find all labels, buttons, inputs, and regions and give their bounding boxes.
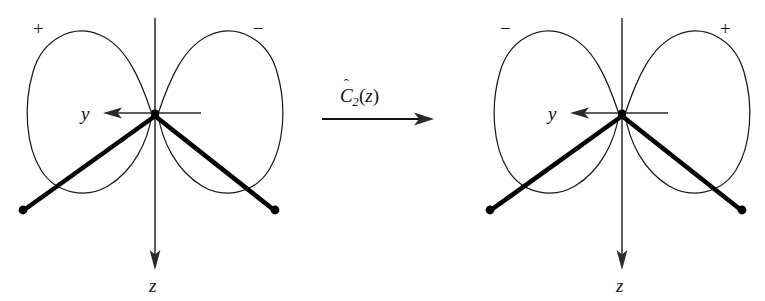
- operator-close-paren: ): [373, 85, 379, 106]
- operator-hat-accent: ˆ: [344, 77, 349, 92]
- operator-argument: z: [365, 85, 373, 106]
- left-diagram-bond-right: [155, 116, 274, 210]
- operator-subscript: 2: [352, 94, 359, 109]
- right-diagram-atom-left: [486, 206, 495, 215]
- left-diagram-atom-left: [19, 206, 28, 215]
- left-diagram-z-axis-label: z: [149, 276, 156, 295]
- left-diagram-lobe-left: [27, 31, 152, 193]
- operator-arrow-group: [322, 112, 434, 125]
- c2-rotation-operator-label: ˆC2(z): [340, 86, 379, 108]
- figure-canvas: [0, 0, 765, 301]
- figure-root: + − y z − + y z ˆC2(z): [0, 0, 765, 301]
- right-diagram-bond-left: [491, 116, 622, 210]
- left-diagram-sign-right: −: [253, 19, 264, 38]
- right-diagram-sign-left: −: [500, 19, 511, 38]
- right-diagram-origin-dot: [618, 109, 626, 117]
- right-diagram-y-axis-label: y: [548, 104, 556, 123]
- right-diagram-group: [486, 18, 750, 270]
- left-diagram-bond-left: [24, 116, 155, 210]
- right-diagram-sign-right: +: [720, 19, 731, 38]
- operator-hatted-symbol: ˆC: [340, 86, 353, 105]
- right-diagram-z-axis-label: z: [616, 276, 623, 295]
- right-diagram-lobe-left: [494, 31, 619, 193]
- left-diagram-y-axis-label: y: [81, 104, 89, 123]
- left-diagram-sign-left: +: [33, 19, 44, 38]
- left-diagram-atom-right: [271, 206, 280, 215]
- left-diagram-origin-dot: [151, 109, 159, 117]
- left-diagram-group: [19, 18, 283, 270]
- right-diagram-bond-right: [622, 116, 741, 210]
- right-diagram-atom-right: [738, 206, 747, 215]
